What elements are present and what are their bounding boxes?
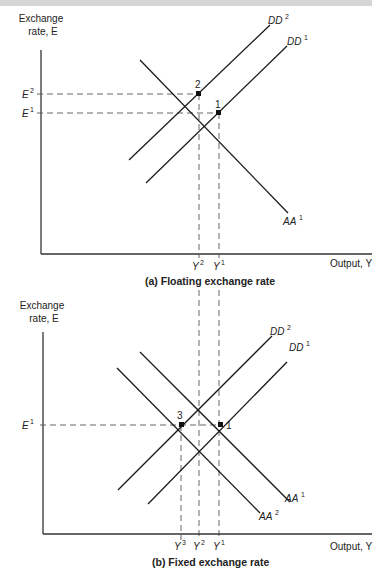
panel-a-dd2-label: DD 2 xyxy=(268,13,289,26)
panel-b-y-axis-label-line2: rate, E xyxy=(29,313,59,324)
diagram-canvas: Exchange rate, E E 2 E 1 DD 2 DD 1 xyxy=(0,0,389,573)
svg-text:1: 1 xyxy=(30,106,34,113)
panel-a-aa1-curve xyxy=(140,60,288,213)
panel-a-y-axis-label-line1: Exchange xyxy=(19,13,64,24)
svg-text:Y: Y xyxy=(213,261,221,272)
panel-a-point-1-label: 1 xyxy=(215,99,221,110)
panel-b-y-tick-e1: E 1 xyxy=(22,418,34,431)
svg-text:2: 2 xyxy=(285,13,289,20)
svg-text:1: 1 xyxy=(304,34,308,41)
panel-a-y-tick-e1: E 1 xyxy=(22,106,34,119)
svg-text:DD: DD xyxy=(289,342,303,353)
panel-b-dd1-curve xyxy=(148,362,287,504)
svg-text:Y: Y xyxy=(192,261,200,272)
panel-a-point-2 xyxy=(196,91,201,96)
svg-text:1: 1 xyxy=(301,491,305,498)
svg-text:DD: DD xyxy=(287,36,301,47)
svg-text:Y: Y xyxy=(193,541,201,552)
svg-text:Y: Y xyxy=(213,541,221,552)
svg-text:2: 2 xyxy=(287,324,291,331)
panel-a-aa1-label: AA 1 xyxy=(282,214,303,227)
panel-b-x-axis-label: Output, Y xyxy=(330,541,372,552)
panel-a-y-tick-e2: E 2 xyxy=(22,87,34,100)
panel-a-caption: (a) Floating exchange rate xyxy=(145,275,275,287)
panel-a-point-2-label: 2 xyxy=(195,79,201,90)
svg-text:AA: AA xyxy=(282,216,297,227)
panel-b-point-1-label: 1 xyxy=(226,420,232,431)
svg-text:E: E xyxy=(22,420,29,431)
panel-a: Exchange rate, E E 2 E 1 DD 2 DD 1 xyxy=(19,13,373,287)
svg-text:DD: DD xyxy=(270,326,284,337)
svg-text:DD: DD xyxy=(268,15,282,26)
panel-a-point-1 xyxy=(216,110,221,115)
panel-a-y-axis-label-line2: rate, E xyxy=(28,26,58,37)
panel-b-point-1 xyxy=(218,422,223,427)
panel-a-dd1-label: DD 1 xyxy=(287,34,308,47)
panel-b-point-3 xyxy=(179,422,184,427)
panel-b-y-axis-label-line1: Exchange xyxy=(20,300,65,311)
panel-b-x-tick-y3: Y 3 xyxy=(174,539,186,552)
panel-b-aa1-label: AA 1 xyxy=(284,491,305,504)
panel-b-x-tick-y2: Y 2 xyxy=(193,539,205,552)
svg-text:1: 1 xyxy=(306,340,310,347)
panel-a-x-axis-label: Output, Y xyxy=(330,258,372,269)
svg-text:Y: Y xyxy=(174,541,182,552)
svg-text:E: E xyxy=(22,89,29,100)
panel-a-x-tick-y1: Y 1 xyxy=(213,259,225,272)
svg-text:1: 1 xyxy=(221,539,225,546)
svg-text:1: 1 xyxy=(299,214,303,221)
svg-text:2: 2 xyxy=(275,509,279,516)
svg-text:AA: AA xyxy=(258,511,273,522)
panel-b-caption: (b) Fixed exchange rate xyxy=(152,556,269,568)
svg-text:E: E xyxy=(22,108,29,119)
panel-b-aa1-curve xyxy=(140,352,290,502)
panel-b-x-tick-y1: Y 1 xyxy=(213,539,225,552)
svg-text:1: 1 xyxy=(30,418,34,425)
panel-b-dd2-curve xyxy=(118,336,272,490)
svg-text:2: 2 xyxy=(30,87,34,94)
panel-b-dd1-label: DD 1 xyxy=(289,340,310,353)
panel-b-point-3-label: 3 xyxy=(177,410,183,421)
svg-text:1: 1 xyxy=(221,259,225,266)
panel-b: Exchange rate, E E 1 DD 2 DD 1 AA 1 A xyxy=(20,300,373,568)
svg-text:3: 3 xyxy=(182,539,186,546)
svg-text:2: 2 xyxy=(201,539,205,546)
panel-b-dd2-label: DD 2 xyxy=(270,324,291,337)
svg-text:2: 2 xyxy=(200,259,204,266)
panel-b-aa2-curve xyxy=(117,368,260,513)
svg-text:AA: AA xyxy=(284,493,299,504)
panel-b-aa2-label: AA 2 xyxy=(258,509,279,522)
panel-a-x-tick-y2: Y 2 xyxy=(192,259,204,272)
